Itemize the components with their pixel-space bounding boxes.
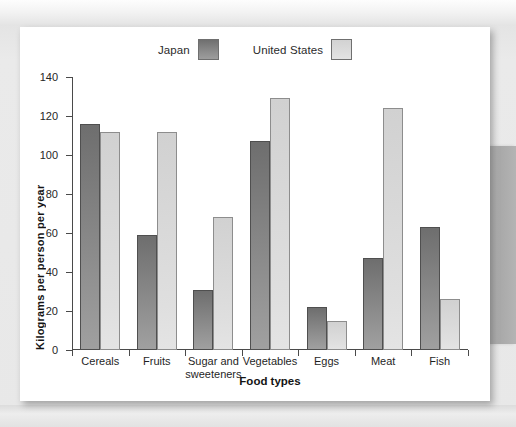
bar-united-states-eggs: [327, 321, 347, 350]
legend-label-united-states: United States: [253, 44, 323, 56]
bar-japan-fruits: [137, 235, 157, 350]
bar-japan-meat: [363, 258, 383, 350]
bar-united-states-meat: [383, 108, 403, 350]
y-tick-120: 120: [66, 116, 72, 117]
y-tick-label-60: 60: [46, 227, 58, 239]
category-label-fruits: Fruits: [129, 355, 186, 368]
bar-united-states-fish: [440, 299, 460, 350]
bar-japan-vegetables: [250, 141, 270, 350]
chart-legend: Japan United States: [20, 39, 490, 60]
category-label-cereals: Cereals: [72, 355, 129, 368]
category-label-vegetables: Vegetables: [242, 355, 299, 368]
y-tick-label-100: 100: [40, 149, 58, 161]
scan-top-edge: [0, 0, 516, 26]
y-axis-line: [72, 77, 73, 350]
united-states-swatch-icon: [331, 39, 352, 60]
y-tick-40: 40: [66, 272, 72, 273]
scan-bottom-edge: [0, 405, 516, 427]
y-tick-label-80: 80: [46, 188, 58, 200]
bar-japan-cereals: [80, 124, 100, 350]
y-tick-80: 80: [66, 194, 72, 195]
adjacent-page-edge: [490, 146, 516, 344]
y-tick-60: 60: [66, 233, 72, 234]
bar-japan-sugar-and-sweeteners: [193, 290, 213, 350]
bar-united-states-cereals: [100, 132, 120, 350]
y-tick-label-20: 20: [46, 305, 58, 317]
y-tick-label-40: 40: [46, 266, 58, 278]
bar-japan-eggs: [307, 307, 327, 350]
legend-entry-japan: Japan: [158, 39, 219, 60]
bar-japan-fish: [420, 227, 440, 350]
y-tick-20: 20: [66, 311, 72, 312]
category-label-meat: Meat: [355, 355, 412, 368]
y-tick-label-120: 120: [40, 110, 58, 122]
bar-united-states-vegetables: [270, 98, 290, 350]
y-tick-label-0: 0: [52, 344, 58, 356]
category-label-eggs: Eggs: [298, 355, 355, 368]
x-axis-title: Food types: [72, 375, 468, 387]
y-tick-label-140: 140: [40, 71, 58, 83]
bar-united-states-fruits: [157, 132, 177, 350]
plot-area: 020406080100120140: [72, 77, 468, 350]
y-tick-100: 100: [66, 155, 72, 156]
legend-entry-united-states: United States: [253, 39, 352, 60]
legend-label-japan: Japan: [158, 44, 190, 56]
y-tick-140: 140: [66, 77, 72, 78]
chart-page: Japan United States Kilograms per person…: [20, 27, 490, 401]
x-tick-7: [468, 350, 469, 356]
category-label-fish: Fish: [411, 355, 468, 368]
japan-swatch-icon: [198, 39, 219, 60]
bar-united-states-sugar-and-sweeteners: [213, 217, 233, 350]
